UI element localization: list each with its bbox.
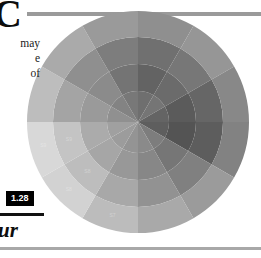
chart-cells-group bbox=[27, 11, 249, 233]
body-text-line-3: of bbox=[0, 66, 40, 81]
chart-cell-label: S8 bbox=[84, 168, 90, 174]
body-text-line-1: may bbox=[0, 36, 40, 51]
chart-cell-label: S9 bbox=[66, 136, 72, 142]
document-page: C S7S8S9S8S9 may e of 1.28 ur bbox=[0, 0, 261, 258]
chart-cell-label: S8 bbox=[66, 186, 72, 192]
figure-number-badge: 1.28 bbox=[6, 191, 34, 206]
chart-cell-label: S7 bbox=[110, 212, 116, 218]
body-text-line-2: e bbox=[0, 51, 40, 66]
body-text-column: may e of bbox=[0, 36, 40, 81]
figure-caption-fragment: ur bbox=[0, 218, 18, 242]
chart-cell-label: S9 bbox=[40, 142, 46, 148]
